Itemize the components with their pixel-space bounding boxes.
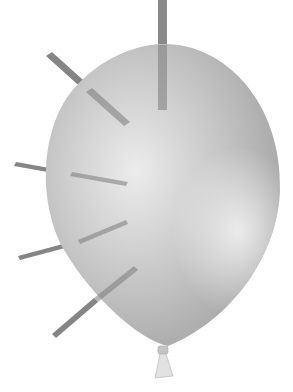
balloon-illustration [0, 0, 293, 392]
skewer-top [158, 0, 167, 45]
skewer-top-inner [158, 45, 167, 110]
